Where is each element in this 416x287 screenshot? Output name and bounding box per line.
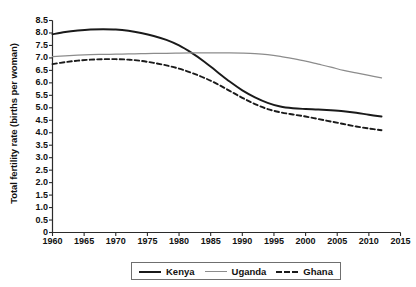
legend-swatch-ghana-icon [276, 267, 298, 276]
legend-item-kenya[interactable]: Kenya [139, 266, 195, 277]
chart-legend: KenyaUgandaGhana [131, 262, 341, 280]
legend-label-uganda: Uganda [232, 266, 267, 277]
legend-label-kenya: Kenya [166, 266, 195, 277]
series-line-uganda [53, 53, 382, 78]
fertility-rate-line-chart: Total fertility rate (births per woman) … [0, 0, 416, 287]
legend-item-uganda[interactable]: Uganda [205, 266, 267, 277]
series-line-ghana [53, 59, 382, 130]
plot-area [0, 0, 416, 287]
legend-swatch-kenya-icon [139, 267, 161, 276]
legend-swatch-uganda-icon [205, 267, 227, 276]
legend-label-ghana: Ghana [303, 266, 333, 277]
series-line-kenya [53, 29, 382, 116]
legend-item-ghana[interactable]: Ghana [276, 266, 333, 277]
